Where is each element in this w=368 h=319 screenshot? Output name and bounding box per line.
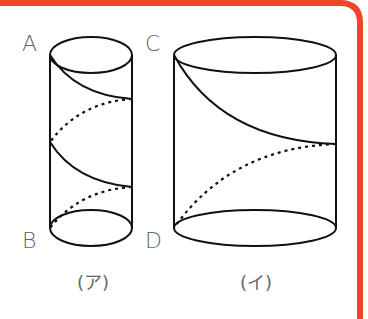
cylinder-diagram: A B C D (ア) (イ) (0, 0, 368, 319)
cylinder-b-top (174, 37, 336, 73)
caption-a: (ア) (77, 272, 109, 293)
cylinder-a-string-back-2 (50, 187, 132, 228)
caption-b: (イ) (240, 272, 272, 293)
label-b: B (22, 228, 36, 253)
label-a: A (22, 31, 37, 56)
frame-border (0, 3, 360, 319)
cylinder-a-string-front-2 (50, 142, 132, 187)
cylinder-a-string-front-1 (50, 55, 132, 99)
cylinder-a-string-back-1 (50, 99, 132, 142)
label-c: C (145, 31, 160, 56)
label-d: D (145, 228, 162, 253)
cylinder-a-top (50, 37, 132, 73)
cylinder-b (174, 37, 336, 246)
cylinder-a (50, 37, 132, 246)
cylinder-b-bottom (174, 210, 336, 246)
